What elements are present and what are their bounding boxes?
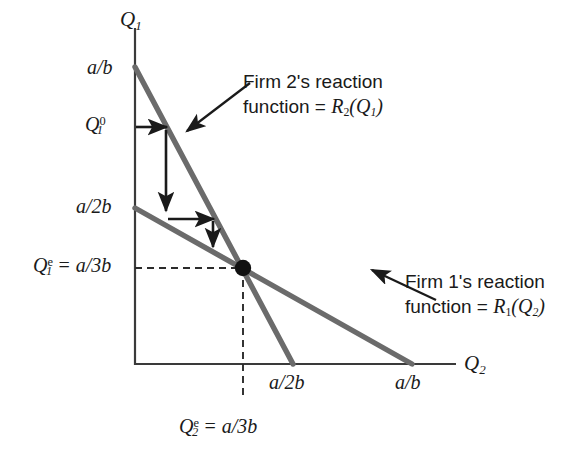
y-axis-label: Q1 <box>120 7 142 34</box>
y-tick-q1-equilibrium: Qe1 = a/3b <box>33 254 111 279</box>
y-tick-a-over-b: a/b <box>87 56 113 79</box>
firm-1-reaction-label-line1: Firm 1's reaction <box>405 270 545 294</box>
reaction-function-diagram: Q1 Q2 a/b Q01 a/2b Qe1 = a/3b a/2b a/b Q… <box>0 0 586 457</box>
firm-2-reaction-label: Firm 2's reaction function = R2(Q1) <box>243 70 383 121</box>
equilibrium-guides <box>135 268 243 400</box>
leader-firm-2 <box>187 83 250 131</box>
firm-1-reaction-label-line2: function = R1(Q2) <box>405 294 545 320</box>
firm-2-reaction-label-line2: function = R2(Q1) <box>243 94 383 120</box>
y-tick-a-over-2b: a/2b <box>76 195 112 218</box>
firm-2-reaction-label-line1: Firm 2's reaction <box>243 70 383 94</box>
equilibrium-point-dot <box>235 260 251 276</box>
x-tick-q2-equilibrium: Qe2 = a/3b <box>179 415 257 440</box>
x-tick-a-over-b: a/b <box>395 371 421 394</box>
y-tick-q1-zero: Q01 <box>85 113 103 138</box>
firm-1-reaction-label: Firm 1's reaction function = R1(Q2) <box>405 270 545 321</box>
x-tick-a-over-2b: a/2b <box>269 371 305 394</box>
firm-1-reaction-curve <box>135 208 412 364</box>
x-axis-label: Q2 <box>464 351 486 378</box>
